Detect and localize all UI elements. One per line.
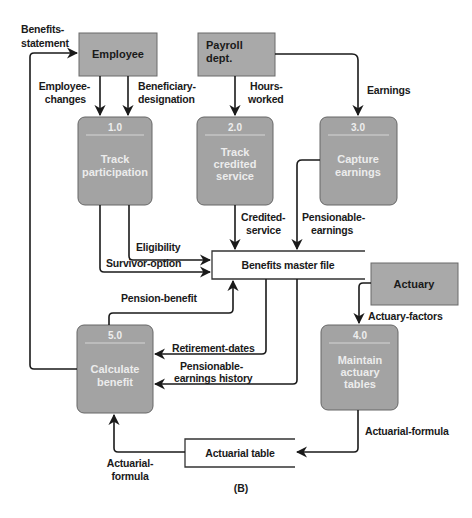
label-credited-service-2: service xyxy=(246,224,281,236)
process-label-line1: Calculate xyxy=(91,363,140,375)
label-credited-service-1: Credited- xyxy=(241,211,286,223)
process-id: 2.0 xyxy=(228,122,242,133)
process-id: 4.0 xyxy=(353,330,367,341)
data-store-benefits-master-file: Benefits master file xyxy=(212,251,365,279)
employee-label: Employee xyxy=(92,48,144,60)
process-label-line1: Maintain xyxy=(338,354,383,366)
process-label-line2: earnings xyxy=(335,166,381,178)
process-3-capture-earnings: 3.0 Capture earnings xyxy=(320,117,397,205)
payroll-label-line1: Payroll xyxy=(206,39,243,51)
label-hours-worked-2: worked xyxy=(247,93,284,105)
label-pensionable-earnings-history-1: Pensionable- xyxy=(180,360,244,372)
payroll-label-line2: dept. xyxy=(206,52,232,64)
label-benefits-statement-2: statement xyxy=(21,37,70,49)
data-store-actuarial-table: Actuarial table xyxy=(185,439,295,467)
external-entity-actuary: Actuary xyxy=(371,263,458,305)
actuary-label: Actuary xyxy=(394,278,436,290)
process-label-line2: participation xyxy=(82,166,148,178)
process-2-track-credited-service: 2.0 Track credited service xyxy=(197,117,273,205)
process-label-line2: credited xyxy=(214,158,257,170)
process-1-track-participation: 1.0 Track participation xyxy=(78,117,152,205)
label-actuarial-formula-in-2: formula xyxy=(111,470,148,482)
external-entity-employee: Employee xyxy=(79,33,157,76)
label-pension-benefit: Pension-benefit xyxy=(121,292,197,304)
data-flow-diagram: Employee Payroll dept. Actuary 1.0 Track… xyxy=(0,0,472,518)
process-label-line1: Capture xyxy=(337,153,379,165)
flow-actuarial-formula-out xyxy=(297,410,358,452)
benefits-master-file-label: Benefits master file xyxy=(242,259,335,271)
process-5-calculate-benefit: 5.0 Calculate benefit xyxy=(77,325,153,413)
label-actuarial-formula-in-1: Actuarial- xyxy=(107,457,154,469)
label-earnings: Earnings xyxy=(367,84,411,96)
label-hours-worked-1: Hours- xyxy=(250,80,283,92)
label-employee-changes-2: changes xyxy=(45,93,87,105)
label-pensionable-earnings-history-2: earnings history xyxy=(174,372,253,384)
flow-actuarial-formula-in xyxy=(114,415,185,452)
process-label-line3: tables xyxy=(344,378,376,390)
flow-earnings xyxy=(275,54,358,115)
label-actuary-factors: Actuary-factors xyxy=(368,310,443,322)
figure-caption: (B) xyxy=(234,482,249,494)
process-label-line2: benefit xyxy=(97,376,133,388)
label-survivor-option: Survivor-option xyxy=(106,257,181,269)
label-pensionable-earnings-2: earnings xyxy=(311,224,354,236)
external-entity-payroll: Payroll dept. xyxy=(198,33,275,76)
label-beneficiary-designation-2: designation xyxy=(138,93,195,105)
label-retirement-dates: Retirement-dates xyxy=(172,342,255,354)
process-id: 3.0 xyxy=(351,122,365,133)
label-benefits-statement-1: Benefits- xyxy=(21,23,65,35)
process-label-line1: Track xyxy=(221,146,251,158)
process-id: 1.0 xyxy=(108,122,122,133)
actuarial-table-label: Actuarial table xyxy=(205,447,275,459)
label-employee-changes-1: Employee- xyxy=(39,80,91,92)
process-label-line2: actuary xyxy=(340,366,380,378)
process-label-line1: Track xyxy=(101,153,131,165)
label-beneficiary-designation-1: Beneficiary- xyxy=(138,80,196,92)
label-eligibility: Eligibility xyxy=(136,241,181,253)
label-actuarial-formula-out: Actuarial-formula xyxy=(365,425,449,437)
process-id: 5.0 xyxy=(108,330,122,341)
process-4-maintain-actuary-tables: 4.0 Maintain actuary tables xyxy=(321,325,398,410)
label-pensionable-earnings-1: Pensionable- xyxy=(302,211,366,223)
process-label-line3: service xyxy=(216,170,254,182)
